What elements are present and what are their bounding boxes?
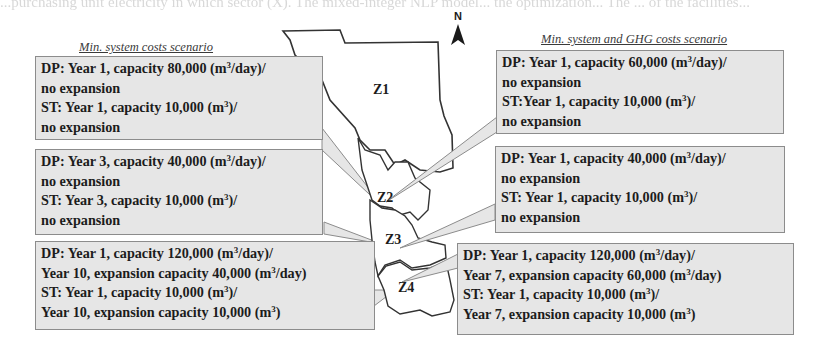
north-arrow-icon [451, 24, 465, 45]
left-box-z1: DP: Year 1, capacity 80,000 (m3/day)/ no… [35, 56, 323, 140]
zone-label-z1: Z1 [373, 82, 389, 98]
right-box-z1: DP: Year 1, capacity 60,000 (m3/day)/ no… [496, 50, 784, 134]
zone-label-z3: Z3 [385, 232, 401, 248]
left-box-z3: DP: Year 1, capacity 120,000 (m3/day)/ Y… [35, 241, 375, 330]
right-box-z3: DP: Year 1, capacity 120,000 (m3/day)/ Y… [457, 243, 794, 335]
north-label: N [454, 10, 462, 22]
left-box-z2: DP: Year 3, capacity 40,000 (m3/day)/ no… [35, 149, 323, 235]
left-scenario-title: Min. system costs scenario [79, 40, 213, 55]
right-scenario-title: Min. system and GHG costs scenario [541, 32, 727, 47]
zone-label-z2: Z2 [377, 190, 393, 206]
zone-label-z4: Z4 [398, 280, 414, 296]
right-box-z2: DP: Year 1, capacity 40,000 (m3/day)/ no… [495, 146, 785, 233]
